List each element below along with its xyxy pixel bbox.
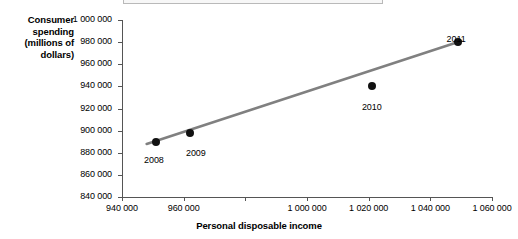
y-tick-mark xyxy=(118,131,122,132)
data-point-label-2009: 2009 xyxy=(186,148,206,158)
y-axis-line xyxy=(122,20,123,198)
x-axis-title: Personal disposable income xyxy=(0,220,518,231)
x-tick-label: 1 000 000 xyxy=(287,203,326,213)
y-axis-title: Consumer spending (millions of dollars) xyxy=(0,14,74,60)
y-tick-mark xyxy=(118,64,122,65)
x-tick-mark xyxy=(184,197,185,201)
x-tick-label: 1 020 000 xyxy=(349,203,388,213)
y-tick-mark xyxy=(118,175,122,176)
data-point-2008 xyxy=(152,138,160,146)
y-tick-mark xyxy=(118,109,122,110)
data-point-label-2008: 2008 xyxy=(144,155,164,165)
y-tick-mark xyxy=(118,20,122,21)
x-tick-mark xyxy=(430,197,431,201)
x-tick-mark xyxy=(245,197,246,201)
y-tick-mark xyxy=(118,86,122,87)
data-point-label-2011: 2011 xyxy=(447,34,466,44)
trend-line-segment xyxy=(147,41,462,144)
y-tick-mark xyxy=(118,153,122,154)
data-point-2010 xyxy=(368,82,376,90)
data-point-label-2010: 2010 xyxy=(362,102,382,112)
x-tick-label: 1 060 000 xyxy=(472,203,511,213)
clipped-title-box xyxy=(123,0,383,4)
x-tick-label: 960 000 xyxy=(168,203,200,213)
x-tick-mark xyxy=(307,197,308,201)
x-tick-mark xyxy=(492,197,493,201)
x-tick-label: 940 000 xyxy=(106,203,138,213)
x-tick-mark xyxy=(122,197,123,201)
y-tick-mark xyxy=(118,42,122,43)
x-tick-label: 1 040 000 xyxy=(411,203,450,213)
x-tick-mark xyxy=(369,197,370,201)
data-point-2009 xyxy=(186,129,194,137)
